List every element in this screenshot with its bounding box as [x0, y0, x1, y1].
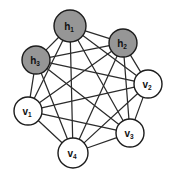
- graph-edge-v2-v3: [135, 97, 143, 120]
- graph-figure: h1h2h3v1v2v3v4: [0, 0, 174, 177]
- node-subscript-v3: 3: [130, 133, 134, 140]
- graph-edge-v1-v3: [42, 114, 117, 130]
- node-layer: h1h2h3v1v2v3v4: [14, 10, 162, 168]
- graph-edge-h2-v2: [130, 55, 140, 72]
- graph-edge-h1-h3: [46, 37, 59, 50]
- graph-node-v4[interactable]: v4: [58, 138, 88, 168]
- node-subscript-h3: 3: [36, 60, 40, 67]
- graph-node-h1[interactable]: h1: [54, 10, 86, 42]
- graph-edge-h1-v4: [70, 42, 72, 138]
- graph-node-v3[interactable]: v3: [116, 119, 144, 147]
- graph-edge-h3-v1: [30, 74, 34, 97]
- graph-node-h3[interactable]: h3: [22, 46, 50, 74]
- graph-canvas: h1h2h3v1v2v3v4: [0, 0, 174, 177]
- graph-edge-v1-v2: [42, 87, 135, 108]
- node-subscript-v1: 1: [28, 111, 32, 118]
- graph-edge-h3-v4: [41, 73, 67, 139]
- node-subscript-v2: 2: [148, 84, 152, 91]
- graph-edge-v1-v4: [38, 121, 62, 143]
- node-subscript-h1: 1: [70, 26, 74, 33]
- graph-node-h2[interactable]: h2: [109, 29, 137, 57]
- node-subscript-v4: 4: [73, 153, 77, 160]
- graph-edge-h1-h2: [85, 31, 109, 39]
- graph-node-v1[interactable]: v1: [14, 97, 42, 125]
- node-subscript-h2: 2: [123, 43, 127, 50]
- graph-node-v2[interactable]: v2: [134, 70, 162, 98]
- graph-edge-h2-h3: [50, 46, 110, 58]
- graph-edge-v3-v4: [87, 138, 117, 148]
